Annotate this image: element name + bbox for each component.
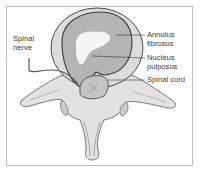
label-annulus-fibrosus: Annulus fibrosus bbox=[147, 31, 174, 48]
label-nucleus-pulposus: Nucleus pulposus bbox=[147, 54, 177, 71]
label-spinal-nerve: Spinal nerve bbox=[13, 35, 34, 52]
label-spinal-cord: Spinal cord bbox=[147, 76, 185, 85]
vertebra-illustration bbox=[0, 0, 200, 173]
spinal-cord bbox=[80, 75, 108, 98]
